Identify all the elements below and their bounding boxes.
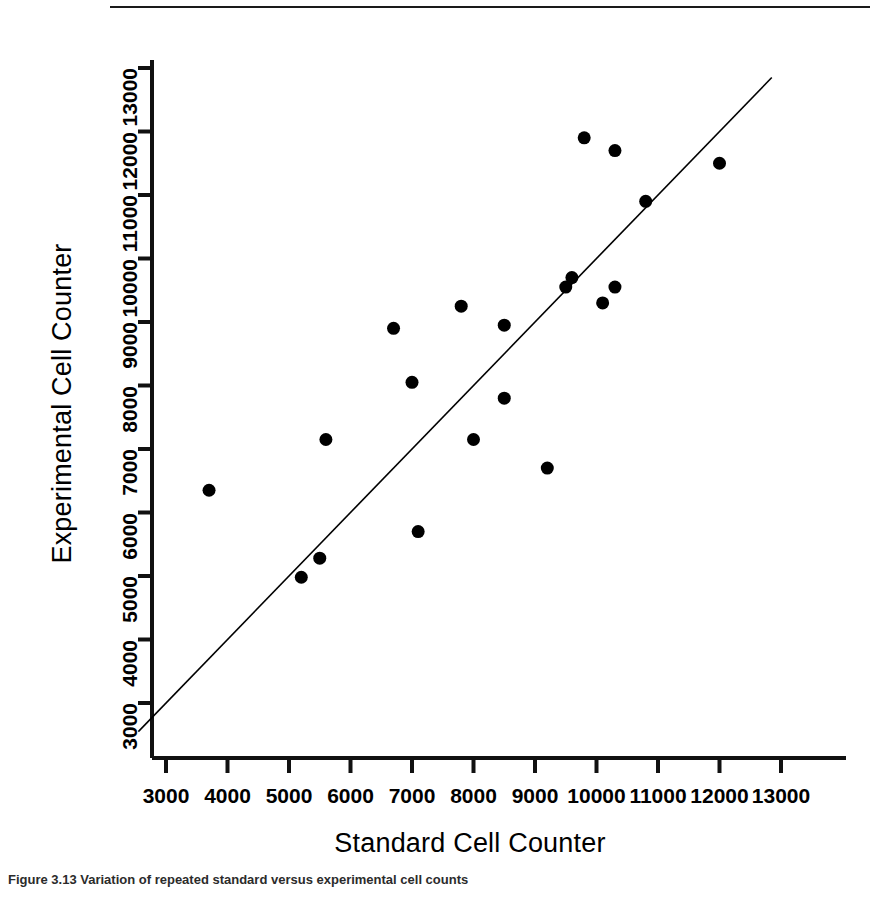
scatter-figure: Experimental Cell Counter Standard Cell …	[0, 0, 870, 903]
data-point	[203, 484, 216, 497]
data-point	[406, 376, 419, 389]
identity-reference-line	[138, 78, 771, 732]
y-tick-label-8000: 8000	[118, 386, 142, 446]
data-point	[295, 571, 308, 584]
data-point	[467, 433, 480, 446]
y-tick-label-6000: 6000	[118, 513, 142, 573]
data-point	[639, 195, 652, 208]
data-point	[313, 552, 326, 565]
data-point	[608, 281, 621, 294]
data-point	[608, 144, 621, 157]
figure-caption: Figure 3.13 Variation of repeated standa…	[8, 872, 468, 887]
y-tick-label-7000: 7000	[118, 449, 142, 509]
data-point	[412, 525, 425, 538]
y-tick-label-5000: 5000	[118, 576, 142, 636]
y-tick-label-13000: 13000	[118, 68, 142, 128]
y-tick-label-12000: 12000	[118, 132, 142, 192]
y-tick-label-11000: 11000	[118, 195, 142, 255]
y-tick-label-4000: 4000	[118, 640, 142, 700]
data-point	[565, 271, 578, 284]
data-point	[498, 319, 511, 332]
data-point	[713, 157, 726, 170]
data-point	[541, 462, 554, 475]
data-point	[596, 296, 609, 309]
y-tick-label-9000: 9000	[118, 322, 142, 382]
y-tick-label-10000: 10000	[118, 259, 142, 319]
y-tick-label-3000: 3000	[118, 703, 142, 763]
x-tick-label-13000: 13000	[741, 784, 821, 808]
data-point	[387, 322, 400, 335]
data-point	[578, 131, 591, 144]
data-point	[319, 433, 332, 446]
data-point	[498, 392, 511, 405]
data-point	[455, 300, 468, 313]
